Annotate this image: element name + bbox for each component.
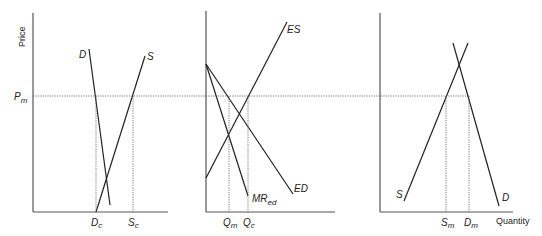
demand-label: D xyxy=(502,192,509,203)
price-level-label: Pm xyxy=(14,91,28,105)
excess-supply-curve xyxy=(206,22,287,178)
y-axis-label: Price xyxy=(17,26,27,47)
panel-home-market: Price Pm D S Dc Sc xyxy=(14,13,168,230)
demand-curve xyxy=(453,43,499,206)
excess-demand-curve xyxy=(206,64,293,194)
marginal-revenue-label: MRed xyxy=(252,193,277,207)
panel-foreign-market: S D Sm Dm Quantity xyxy=(380,13,530,230)
demand-label: D xyxy=(79,49,86,60)
three-panel-trade-diagram: Price Pm D S Dc Sc ES ED MRed xyxy=(0,0,542,236)
tick-dm: Dm xyxy=(464,217,478,230)
supply-label: S xyxy=(147,51,154,62)
panel-international-market: ES ED MRed Qm Qc xyxy=(206,11,335,230)
excess-supply-label: ES xyxy=(287,24,301,35)
excess-demand-label: ED xyxy=(294,183,308,194)
tick-sc: Sc xyxy=(128,217,139,230)
tick-sm: Sm xyxy=(441,217,455,230)
supply-curve xyxy=(96,56,145,212)
tick-qc: Qc xyxy=(243,217,255,230)
marginal-revenue-curve xyxy=(206,64,248,196)
supply-label: S xyxy=(396,189,403,200)
supply-curve xyxy=(404,43,468,201)
x-axis-label: Quantity xyxy=(496,216,530,226)
demand-curve xyxy=(89,49,110,205)
tick-qm: Qm xyxy=(223,217,238,230)
tick-dc: Dc xyxy=(91,217,102,230)
